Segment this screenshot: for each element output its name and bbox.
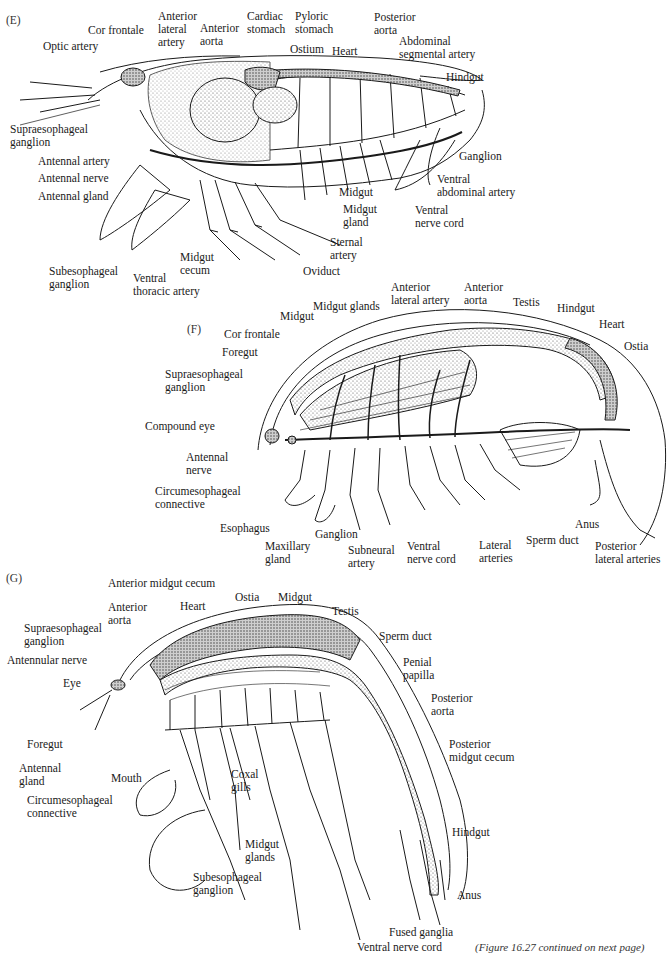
label-midgut-e: Midgut <box>339 186 373 199</box>
label-posterior-lateral-arteries: Posterior lateral arteries <box>595 540 660 566</box>
label-ostia-g: Ostia <box>235 591 259 604</box>
label-cor-frontale-f: Cor frontale <box>224 328 280 341</box>
label-ganglion-e: Ganglion <box>459 150 502 163</box>
label-antennal-gland-g: Antennal gland <box>19 762 61 788</box>
label-subesophageal-ganglion-g: Subesophageal ganglion <box>193 871 262 897</box>
label-foregut-g: Foregut <box>27 738 63 751</box>
label-fused-ganglia: Fused ganglia <box>389 926 453 939</box>
label-anterior-aorta-f: Anterior aorta <box>464 281 503 307</box>
label-midgut-glands-g: Midgut glands <box>245 838 279 864</box>
label-hindgut-g: Hindgut <box>452 826 490 839</box>
label-antennular-nerve: Antennular nerve <box>7 654 87 667</box>
label-optic-artery: Optic artery <box>43 40 98 53</box>
label-ostium: Ostium <box>290 43 324 56</box>
label-anus-g: Anus <box>457 889 481 902</box>
label-midgut-glands-f: Midgut glands <box>313 300 380 313</box>
label-sternal-artery: Sternal artery <box>330 236 363 262</box>
label-anus-f: Anus <box>575 518 599 531</box>
label-esophagus: Esophagus <box>220 522 270 535</box>
label-circumesophageal-connective-f: Circumesophageal connective <box>155 485 241 511</box>
label-sperm-duct-g: Sperm duct <box>379 630 432 643</box>
label-coxal-gills: Coxal gills <box>231 768 258 794</box>
label-anterior-midgut-cecum: Anterior midgut cecum <box>108 577 215 590</box>
label-circumesophageal-connective-g: Circumesophageal connective <box>27 794 113 820</box>
label-anterior-aorta: Anterior aorta <box>200 22 239 48</box>
label-ventral-thoracic-artery: Ventral thoracic artery <box>133 272 200 298</box>
label-oviduct: Oviduct <box>303 265 340 278</box>
label-penial-papilla: Penial papilla <box>403 656 434 682</box>
label-midgut-f: Midgut <box>280 310 314 323</box>
label-posterior-midgut-cecum: Posterior midgut cecum <box>449 738 514 764</box>
figure-caption: (Figure 16.27 continued on next page) <box>475 941 644 953</box>
label-supraesophageal-ganglion-g: Supraesophageal ganglion <box>24 622 102 648</box>
label-heart-e: Heart <box>332 45 358 58</box>
label-ventral-abdominal-artery: Ventral abdominal artery <box>437 173 515 199</box>
label-sperm-duct-f: Sperm duct <box>526 534 579 547</box>
label-ventral-nerve-cord-g: Ventral nerve cord <box>357 941 442 954</box>
label-supraesophageal-ganglion-e: Supraesophageal ganglion <box>10 123 88 149</box>
label-testis-g: Testis <box>332 605 359 618</box>
label-ventral-nerve-cord-f: Ventral nerve cord <box>407 540 456 566</box>
label-ganglion-f: Ganglion <box>315 528 358 541</box>
label-maxillary-gland: Maxillary gland <box>265 540 310 566</box>
label-antennal-nerve-e: Antennal nerve <box>38 172 109 185</box>
label-ventral-nerve-cord-e: Ventral nerve cord <box>415 204 464 230</box>
label-subneural-artery: Subneural artery <box>348 544 395 570</box>
label-pyloric-stomach: Pyloric stomach <box>295 10 333 36</box>
panel-label-g: (G) <box>6 572 22 584</box>
label-compound-eye: Compound eye <box>145 420 215 433</box>
label-posterior-aorta: Posterior aorta <box>374 11 416 37</box>
label-abdominal-segmental-artery: Abdominal segmental artery <box>399 35 475 61</box>
label-hindgut-f: Hindgut <box>557 302 595 315</box>
label-heart-g: Heart <box>180 600 206 613</box>
label-anterior-lateral-artery: Anterior lateral artery <box>158 10 197 49</box>
panel-f-drawing <box>258 310 666 545</box>
label-cor-frontale: Cor frontale <box>88 24 144 37</box>
label-foregut-f: Foregut <box>222 346 258 359</box>
label-antennal-nerve-f: Antennal nerve <box>186 451 228 477</box>
label-posterior-aorta-g: Posterior aorta <box>431 692 473 718</box>
label-midgut-g: Midgut <box>278 591 312 604</box>
panel-label-f: (F) <box>187 323 201 335</box>
label-subesophageal-ganglion-e: Subesophageal ganglion <box>49 265 118 291</box>
label-antennal-gland-e: Antennal gland <box>38 190 109 203</box>
panel-label-e: (E) <box>6 14 21 26</box>
label-midgut-gland: Midgut gland <box>343 203 377 229</box>
label-ostia-f: Ostia <box>624 340 648 353</box>
label-supraesophageal-ganglion-f: Supraesophageal ganglion <box>165 368 243 394</box>
label-heart-f: Heart <box>599 318 625 331</box>
label-anterior-lateral-artery-f: Anterior lateral artery <box>391 281 449 307</box>
label-anterior-aorta-g: Anterior aorta <box>108 601 147 627</box>
label-antennal-artery: Antennal artery <box>38 155 110 168</box>
label-mouth: Mouth <box>111 772 142 785</box>
label-cardiac-stomach: Cardiac stomach <box>247 10 285 36</box>
label-hindgut-e: Hindgut <box>446 71 484 84</box>
label-lateral-arteries: Lateral arteries <box>479 539 513 565</box>
label-eye-g: Eye <box>63 677 81 690</box>
label-testis-f: Testis <box>513 296 540 309</box>
